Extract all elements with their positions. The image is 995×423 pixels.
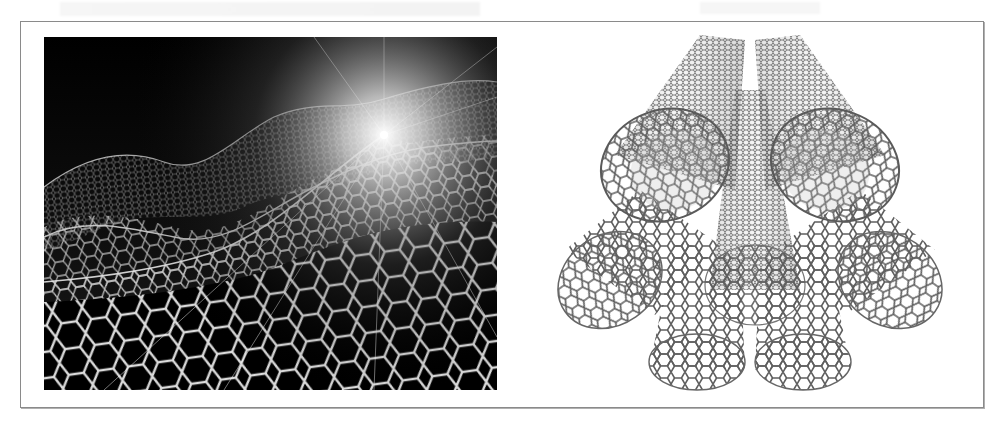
bleed-through-text-top <box>60 2 480 16</box>
bleed-through-text-top-right <box>700 2 820 14</box>
graphene-lattice-illustration <box>44 37 497 390</box>
nanotube-image <box>545 30 955 398</box>
carbon-nanotube-bundle-illustration <box>545 30 955 398</box>
graphene-image <box>44 37 497 390</box>
